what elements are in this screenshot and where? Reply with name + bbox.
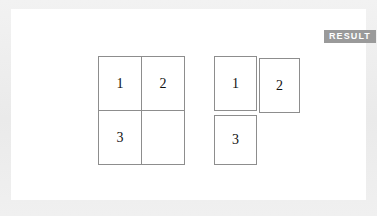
- cell-label: 3: [232, 133, 239, 147]
- cell-label: 1: [117, 76, 124, 90]
- cell-label: 2: [160, 76, 167, 90]
- grid-cell: 1: [98, 56, 142, 111]
- result-badge: RESULT: [324, 30, 376, 43]
- page-background: RESULT 1 2 3 1 2 3: [0, 0, 377, 216]
- grid-cell-empty: [141, 110, 185, 165]
- cell-label: 3: [117, 130, 124, 144]
- result-panel: RESULT 1 2 3 1 2 3: [11, 9, 366, 200]
- cell-label: 1: [232, 76, 239, 90]
- grid-cell: 3: [98, 110, 142, 165]
- grid-cell: 2: [141, 56, 185, 111]
- grid-cell: 2: [259, 58, 300, 113]
- cell-label: 2: [276, 78, 283, 92]
- grid-cell: 1: [214, 56, 257, 111]
- grid-cell: 3: [214, 115, 257, 165]
